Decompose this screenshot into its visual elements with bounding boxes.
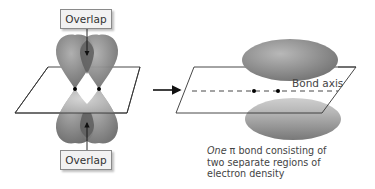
nucleus-right-atom-1	[252, 89, 256, 93]
nucleus-left-atom-2	[97, 87, 101, 91]
overlap-label-bottom: Overlap	[60, 150, 112, 170]
caption-emphasis: One	[207, 145, 227, 156]
caption-line-3: electron density	[207, 168, 375, 180]
lower-lobes-seen-through-plane	[60, 89, 114, 113]
left-panel	[15, 28, 140, 150]
right-panel	[176, 39, 356, 140]
caption-line-1: One π bond consisting of	[207, 145, 375, 157]
caption-line-2: two separate regions of	[207, 157, 375, 169]
pi-bond-caption: One π bond consisting of two separate re…	[207, 145, 375, 180]
upper-electron-density-region	[242, 39, 338, 81]
caption-line-1-rest: bond consisting of	[235, 145, 326, 156]
overlap-label-top: Overlap	[60, 9, 112, 29]
lower-electron-density-region	[245, 98, 341, 140]
nucleus-left-atom-1	[73, 87, 77, 91]
nucleus-right-atom-2	[276, 89, 280, 93]
bond-axis-label: Bond axis	[292, 77, 343, 89]
